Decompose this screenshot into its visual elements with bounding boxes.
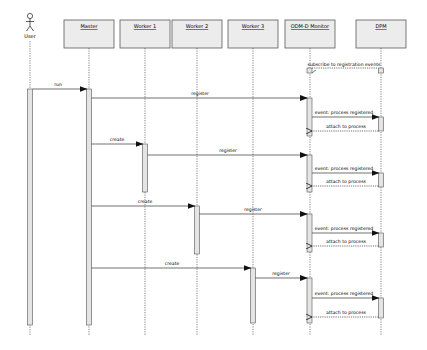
sequence-diagram: User Master Worker 1 Worker 2 Worker 3 O… xyxy=(0,0,427,350)
participant-worker-2: Worker 2 xyxy=(172,20,222,335)
activation-master xyxy=(87,89,92,325)
message-label: register xyxy=(219,148,237,153)
message-label: attach to process xyxy=(326,179,366,184)
message-label: event: process registered xyxy=(315,166,374,171)
message-label: create xyxy=(138,199,153,204)
message-run: run xyxy=(33,82,87,89)
actor-user: User xyxy=(24,13,36,335)
message-label: attach to process xyxy=(326,310,366,315)
message-event-process-registered: event: process registered xyxy=(312,291,379,298)
activation-worker-2 xyxy=(195,206,200,254)
actor-label: User xyxy=(24,33,36,39)
participant-worker-1: Worker 1 xyxy=(120,20,170,335)
message-attach-to-process: attach to process xyxy=(312,239,379,247)
participant-dpm: DPM xyxy=(356,20,406,335)
message-label: register xyxy=(272,271,290,276)
participant-label: Worker 2 xyxy=(186,23,208,29)
activation-dpm xyxy=(379,117,384,131)
activation-dpm xyxy=(379,298,384,318)
activation-monitor xyxy=(307,278,312,323)
message-label: register xyxy=(191,91,209,96)
message-label: create xyxy=(165,261,180,266)
message-create-worker-1: create xyxy=(92,137,143,144)
message-register: register xyxy=(92,91,308,98)
activation-dpm xyxy=(379,233,384,247)
participant-master: Master xyxy=(64,20,114,335)
message-attach-to-process: attach to process xyxy=(312,179,379,187)
message-label: run xyxy=(54,82,62,87)
activation-dpm xyxy=(379,173,384,187)
activation-worker-3 xyxy=(251,268,256,323)
message-label: create xyxy=(110,137,125,142)
activation-worker-1 xyxy=(143,144,148,192)
message-label: attach to process xyxy=(326,124,366,129)
participant-label: Worker 3 xyxy=(242,23,264,29)
participant-label: Master xyxy=(80,23,98,29)
participant-worker-3: Worker 3 xyxy=(228,20,278,335)
participant-label: ODM-D Monitor xyxy=(291,23,330,29)
activation-monitor xyxy=(307,214,312,252)
message-event-process-registered: event: process registered xyxy=(312,166,379,173)
activation-monitor xyxy=(307,155,312,192)
activation-user xyxy=(28,89,33,325)
activation-dpm xyxy=(379,68,384,73)
message-label: attach to process xyxy=(326,239,366,244)
message-attach-to-process: attach to process xyxy=(312,310,379,318)
message-register-worker-3: register xyxy=(256,271,308,278)
message-subscribe: subscribe to registration events xyxy=(307,62,381,74)
message-register-worker-1: register xyxy=(148,148,308,155)
message-event-process-registered: event: process registered xyxy=(312,110,379,117)
message-event-process-registered: event: process registered xyxy=(312,226,379,233)
message-create-worker-3: create xyxy=(92,261,251,268)
message-label: register xyxy=(244,207,262,212)
activation-monitor xyxy=(307,68,312,73)
participant-label: DPM xyxy=(375,23,386,29)
message-attach-to-process: attach to process xyxy=(312,124,379,132)
message-label: subscribe to registration events xyxy=(307,62,381,67)
stick-figure-icon xyxy=(26,13,34,31)
message-label: event: process registered xyxy=(315,291,374,296)
message-label: event: process registered xyxy=(315,110,374,115)
activation-monitor xyxy=(307,98,312,136)
participant-label: Worker 1 xyxy=(134,23,156,29)
message-label: event: process registered xyxy=(315,226,374,231)
participant-odm-d-monitor: ODM-D Monitor xyxy=(285,20,335,335)
message-create-worker-2: create xyxy=(92,199,195,206)
message-register-worker-2: register xyxy=(200,207,308,214)
